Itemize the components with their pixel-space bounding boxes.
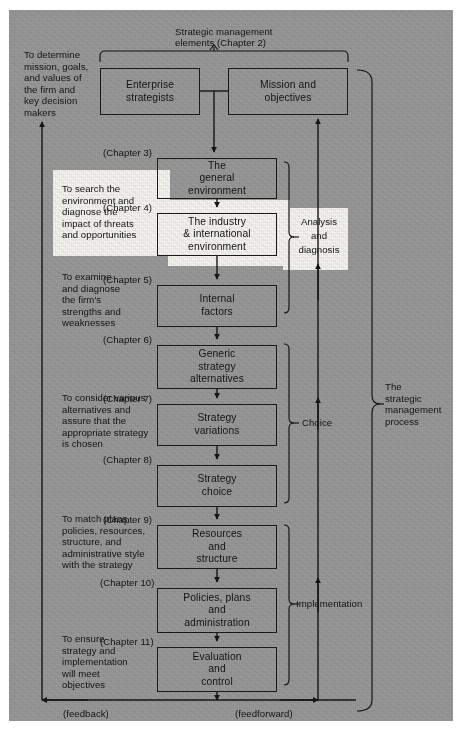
box-generic-strategy-alternatives-label: Genericstrategyalternatives	[190, 348, 244, 386]
outer-bracket-label: Thestrategicmanagementprocess	[385, 381, 455, 427]
purpose-note-consider-alternatives: To consider variousalternatives andassur…	[62, 392, 158, 450]
box-strategy-variations[interactable]: Strategyvariations	[157, 404, 277, 446]
box-mission-objectives-label: Mission andobjectives	[260, 79, 316, 104]
box-strategy-variations-label: Strategyvariations	[194, 412, 239, 437]
box-strategy-choice-label: Strategychoice	[197, 473, 236, 498]
chapter-label-10: (Chapter 10)	[100, 577, 154, 589]
box-evaluation-control-label: Evaluationandcontrol	[192, 651, 241, 689]
phase-label-implementation: Implementation	[296, 598, 362, 610]
box-internal-factors-label: Internalfactors	[199, 293, 234, 318]
box-evaluation-control[interactable]: Evaluationandcontrol	[157, 647, 277, 692]
box-general-environment-label: Thegeneralenvironment	[188, 160, 246, 198]
purpose-note-search-environment: To search theenvironment anddiagnose the…	[62, 183, 168, 241]
purpose-note-match-plans: To match plans,policies, resources,struc…	[62, 513, 158, 571]
box-enterprise-strategists[interactable]: Enterprisestrategists	[100, 68, 200, 115]
box-industry-international-environment[interactable]: The industry& internationalenvironment	[157, 213, 277, 256]
top-title-line2: elements (Chapter 2)	[175, 37, 266, 49]
top-title-line1: Strategic management	[175, 26, 273, 38]
box-enterprise-strategists-label: Enterprisestrategists	[126, 79, 174, 104]
box-resources-structure[interactable]: Resourcesandstructure	[157, 525, 277, 569]
box-generic-strategy-alternatives[interactable]: Genericstrategyalternatives	[157, 345, 277, 389]
feedback-label: (feedback)	[63, 708, 109, 720]
page-edge-left	[0, 0, 9, 737]
phase-label-choice: Choice	[302, 417, 332, 429]
page-edge-right	[453, 0, 459, 737]
box-mission-objectives[interactable]: Mission andobjectives	[228, 68, 348, 115]
feedforward-label: (feedforward)	[235, 708, 293, 720]
box-policies-plans-administration-label: Policies, plansandadministration	[183, 592, 250, 630]
page-edge-top	[0, 0, 459, 10]
diagram-canvas: Enterprisestrategists Mission andobjecti…	[0, 0, 459, 737]
purpose-note-examine-strengths: To examineand diagnosethe firm'sstrength…	[62, 271, 148, 329]
box-strategy-choice[interactable]: Strategychoice	[157, 465, 277, 507]
purpose-note-determine-mission: To determinemission, goals,and values of…	[24, 49, 102, 119]
box-general-environment[interactable]: Thegeneralenvironment	[157, 158, 277, 199]
chapter-label-8: (Chapter 8)	[103, 454, 152, 466]
box-internal-factors[interactable]: Internalfactors	[157, 285, 277, 327]
chapter-label-6: (Chapter 6)	[103, 334, 152, 346]
page-edge-bottom	[0, 721, 459, 737]
highlight-connector-patch	[168, 256, 288, 266]
box-resources-structure-label: Resourcesandstructure	[192, 528, 242, 566]
box-policies-plans-administration[interactable]: Policies, plansandadministration	[157, 588, 277, 633]
box-industry-international-environment-label: The industry& internationalenvironment	[183, 216, 250, 254]
purpose-note-ensure-strategy: To ensurestrategy andimplementationwill …	[62, 633, 152, 691]
phase-label-analysis-diagnosis: Analysisanddiagnosis	[293, 215, 345, 257]
chapter-label-3: (Chapter 3)	[103, 147, 152, 159]
